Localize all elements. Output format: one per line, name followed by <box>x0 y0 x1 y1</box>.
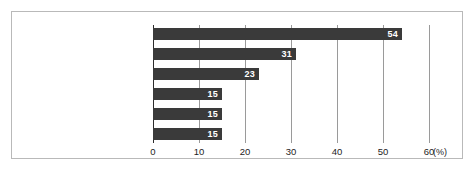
x-tick-label: 10 <box>179 146 219 158</box>
chart-page: 何をしていいのかわからない 54 考えたこともない 31 自分ひとりでは意味がな… <box>0 0 476 178</box>
x-tick-label: 20 <box>225 146 265 158</box>
bar-value-label: 15 <box>153 88 222 100</box>
chart-frame: 何をしていいのかわからない 54 考えたこともない 31 自分ひとりでは意味がな… <box>11 11 463 159</box>
bar-value-label: 31 <box>153 48 296 60</box>
gridline-30 <box>291 25 292 143</box>
gridline-50 <box>383 25 384 143</box>
bar-value-label: 54 <box>153 28 402 40</box>
x-tick-label: 40 <box>317 146 357 158</box>
x-tick-label: 50 <box>363 146 403 158</box>
x-tick-label: 0 <box>133 146 173 158</box>
x-tick-label: 30 <box>271 146 311 158</box>
axis-zero-line <box>153 25 154 143</box>
bar-value-label: 15 <box>153 128 222 140</box>
bar-value-label: 23 <box>153 68 259 80</box>
gridline-20 <box>245 25 246 143</box>
x-axis-unit-label: (%) <box>433 146 447 158</box>
gridline-40 <box>337 25 338 143</box>
gridline-10 <box>199 25 200 143</box>
gridline-60 <box>429 25 430 143</box>
bar-value-label: 15 <box>153 108 222 120</box>
plot-area: 何をしていいのかわからない 54 考えたこともない 31 自分ひとりでは意味がな… <box>12 12 464 160</box>
